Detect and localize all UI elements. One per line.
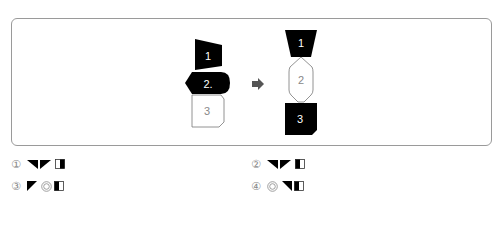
left-shape-2: 2. (185, 72, 230, 94)
triangle-top-left-black-icon (40, 160, 51, 169)
right-shape-1: 1 (285, 30, 317, 57)
option-1[interactable]: ① (10, 156, 65, 172)
right-shape-3: 3 (285, 103, 317, 135)
triangle-top-right-black-icon (267, 160, 278, 169)
half-filled-rect-left-black-icon (294, 181, 304, 191)
triangle-top-left-black-icon (27, 181, 37, 191)
left-shape-3-label: 3 (204, 105, 210, 117)
option-3-number: ③ (10, 180, 22, 193)
right-shape-2-label: 2 (298, 74, 304, 86)
half-filled-rect-left-black-icon (54, 181, 64, 191)
right-shape-1-label: 1 (298, 37, 304, 49)
double-circle-icon (267, 181, 278, 192)
triangle-top-right-black-icon (282, 181, 292, 191)
left-shape-3: 3 (192, 95, 224, 127)
option-4[interactable]: ④ (250, 178, 304, 194)
left-shape-1: 1 (195, 39, 222, 70)
left-shape-2-label: 2. (203, 78, 212, 90)
right-arrow-icon (252, 78, 264, 90)
triangle-top-left-black-icon (280, 160, 291, 169)
option-2-number: ② (250, 158, 262, 171)
double-circle-icon (41, 181, 52, 192)
half-filled-rect-right-black-icon (55, 159, 65, 169)
option-3[interactable]: ③ (10, 178, 64, 194)
half-filled-rect-left-black-icon (295, 159, 305, 169)
triangle-top-right-black-icon (27, 160, 38, 169)
right-shape-2: 2 (289, 57, 313, 102)
option-2[interactable]: ② (250, 156, 305, 172)
option-4-number: ④ (250, 180, 262, 193)
option-1-number: ① (10, 158, 22, 171)
left-shape-1-label: 1 (205, 50, 211, 62)
right-shape-3-label: 3 (297, 113, 303, 125)
